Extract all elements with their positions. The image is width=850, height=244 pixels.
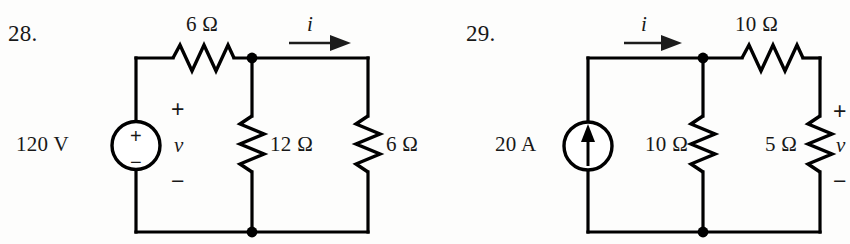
label-28-series-resistor: 6 Ω bbox=[186, 14, 218, 35]
label-28-source-plus: + bbox=[130, 126, 142, 146]
label-29-voltage: v bbox=[836, 135, 845, 156]
problem-number-28: 28. bbox=[8, 22, 37, 45]
node-29-bottom bbox=[698, 227, 709, 238]
resistor-29-series-10ohm bbox=[742, 45, 803, 71]
label-28-source-minus: − bbox=[130, 152, 142, 172]
current-arrow-29 bbox=[624, 35, 682, 51]
label-29-polarity-minus: − bbox=[833, 170, 846, 193]
node-28-top bbox=[247, 53, 258, 64]
label-28-branch-resistor-2: 6 Ω bbox=[386, 134, 418, 155]
label-29-source-value: 20 A bbox=[495, 134, 536, 155]
node-28-bottom bbox=[247, 227, 258, 238]
current-arrow-28 bbox=[289, 35, 351, 51]
resistor-28-branch-6ohm bbox=[356, 116, 380, 172]
problem-number-29: 29. bbox=[466, 22, 495, 45]
label-28-voltage: v bbox=[174, 135, 183, 156]
resistor-28-series-6ohm bbox=[173, 45, 234, 71]
label-29-series-resistor: 10 Ω bbox=[735, 14, 778, 35]
label-28-polarity-minus: − bbox=[171, 170, 184, 193]
resistor-29-branch-5ohm bbox=[808, 116, 832, 172]
label-29-polarity-plus: + bbox=[833, 100, 846, 123]
figure-page: 28. 6 Ω i 120 V + − + v − 12 Ω 6 Ω 29. i… bbox=[0, 0, 850, 244]
resistor-29-branch-10ohm bbox=[691, 116, 715, 172]
label-28-polarity-plus: + bbox=[171, 98, 184, 121]
label-29-branch-resistor-1: 10 Ω bbox=[645, 134, 688, 155]
resistor-28-branch-12ohm bbox=[240, 116, 264, 172]
label-28-current: i bbox=[307, 14, 313, 35]
node-29-top bbox=[698, 53, 709, 64]
circuit-28 bbox=[112, 35, 380, 237]
label-29-current: i bbox=[641, 14, 647, 35]
label-29-branch-resistor-2: 5 Ω bbox=[765, 134, 797, 155]
label-28-source-value: 120 V bbox=[16, 134, 69, 155]
circuit-artwork bbox=[0, 0, 850, 244]
label-28-branch-resistor-1: 12 Ω bbox=[270, 134, 313, 155]
